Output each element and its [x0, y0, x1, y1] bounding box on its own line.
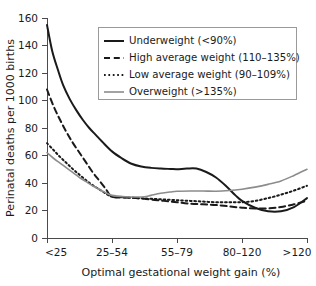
- series-line-2: [47, 143, 307, 202]
- y-axis-tick-group: 020406080100120140160: [18, 12, 47, 244]
- x-tick-label: <25: [45, 246, 67, 258]
- y-tick-label: 20: [25, 204, 38, 216]
- x-axis-title: Optimal gestational weight gain (%): [82, 266, 281, 279]
- y-tick-label: 60: [25, 149, 38, 161]
- chart-figure: 020406080100120140160 <2525–5455–7980–12…: [0, 0, 316, 286]
- y-tick-label: 80: [25, 122, 38, 134]
- y-axis-title: Perinatal deaths per 1000 births: [4, 39, 17, 217]
- x-tick-label: 80–120: [223, 246, 262, 258]
- series-line-3: [47, 153, 307, 197]
- x-tick-label: >120: [283, 246, 312, 258]
- y-tick-label: 120: [18, 67, 38, 79]
- chart-legend: Underweight (<90%)High average weight (1…: [98, 27, 300, 99]
- y-tick-label: 100: [18, 94, 38, 106]
- x-axis-tick-group: <2525–5455–7980–120>120: [45, 238, 312, 258]
- x-tick-label: 25–54: [96, 246, 128, 258]
- line-chart: 020406080100120140160 <2525–5455–7980–12…: [0, 0, 316, 286]
- y-tick-label: 40: [25, 177, 38, 189]
- legend-label-0: Underweight (<90%): [129, 35, 237, 46]
- y-tick-label: 140: [18, 39, 38, 51]
- legend-label-1: High average weight (110–135%): [129, 52, 300, 63]
- legend-label-2: Low average weight (90–109%): [129, 69, 290, 80]
- legend-label-3: Overweight (>135%): [129, 86, 237, 97]
- y-tick-label: 160: [18, 12, 38, 24]
- x-tick-label: 55–79: [161, 246, 193, 258]
- y-tick-label: 0: [31, 232, 38, 244]
